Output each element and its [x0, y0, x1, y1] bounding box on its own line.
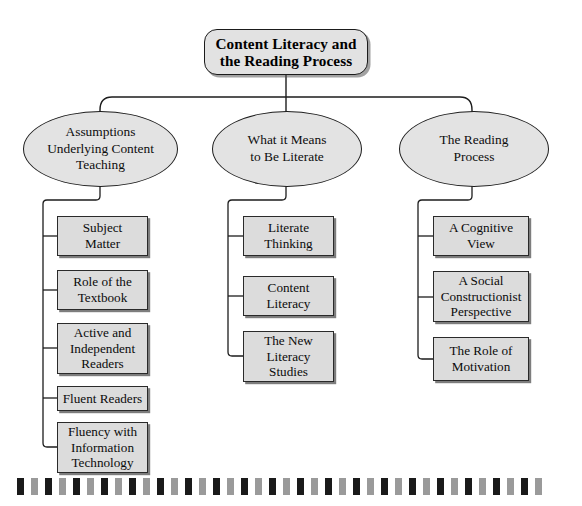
- barcode-block: [283, 478, 290, 495]
- branch-node-reading-process[interactable]: The Reading Process: [399, 111, 549, 187]
- barcode-block: [213, 478, 220, 495]
- leaf-active-line-1: Active and: [70, 325, 135, 341]
- barcode-block: [59, 478, 66, 495]
- branch-node-assumptions[interactable]: Assumptions Underlying Content Teaching: [23, 111, 178, 187]
- leaf-social-line-3: Perspective: [441, 304, 522, 320]
- branch-assumptions-line-3: Teaching: [47, 157, 154, 174]
- leaf-role-of-motivation[interactable]: The Role of Motivation: [433, 337, 529, 381]
- leaf-literate-thinking[interactable]: Literate Thinking: [243, 216, 334, 256]
- root-node-line-1: Content Literacy and: [215, 35, 356, 52]
- barcode-block: [297, 478, 304, 495]
- barcode-block: [367, 478, 374, 495]
- leaf-fluent-readers-line-1: Fluent Readers: [63, 391, 142, 407]
- barcode-block: [325, 478, 332, 495]
- barcode-block: [157, 478, 164, 495]
- leaf-fluent-readers[interactable]: Fluent Readers: [57, 386, 148, 411]
- barcode-block: [451, 478, 458, 495]
- leaf-textbook-line-1: Role of the: [73, 274, 132, 290]
- root-node-line-2: the Reading Process: [215, 52, 356, 69]
- leaf-fluency-line-2: Information: [68, 440, 137, 456]
- barcode-block: [535, 478, 542, 495]
- leaf-subject-matter-line-1: Subject: [83, 220, 123, 236]
- barcode-block: [87, 478, 94, 495]
- barcode-block: [269, 478, 276, 495]
- barcode-block: [143, 478, 150, 495]
- leaf-motivation-line-2: Motivation: [450, 359, 513, 375]
- leaf-content-literacy-line-2: Literacy: [267, 296, 311, 312]
- leaf-fluency-information-technology[interactable]: Fluency with Information Technology: [57, 422, 148, 473]
- barcode-block: [311, 478, 318, 495]
- root-node[interactable]: Content Literacy and the Reading Process: [204, 29, 368, 75]
- leaf-active-line-3: Readers: [70, 356, 135, 372]
- leaf-new-literacy-line-1: The New: [264, 333, 313, 349]
- barcode-block: [185, 478, 192, 495]
- branch-reading-line-1: The Reading: [440, 132, 509, 149]
- leaf-textbook-line-2: Textbook: [73, 290, 132, 306]
- barcode-block: [227, 478, 234, 495]
- barcode-block: [465, 478, 472, 495]
- barcode-strip: [17, 478, 542, 495]
- barcode-block: [507, 478, 514, 495]
- barcode-block: [199, 478, 206, 495]
- leaf-motivation-line-1: The Role of: [450, 343, 513, 359]
- leaf-literate-thinking-line-2: Thinking: [264, 236, 312, 252]
- leaf-new-literacy-line-2: Literacy: [264, 349, 313, 365]
- leaf-new-literacy-line-3: Studies: [264, 364, 313, 380]
- barcode-block: [115, 478, 122, 495]
- diagram-canvas: Content Literacy and the Reading Process…: [0, 0, 582, 506]
- branch-literate-line-2: to Be Literate: [248, 149, 327, 166]
- barcode-block: [423, 478, 430, 495]
- barcode-block: [17, 478, 24, 495]
- barcode-block: [479, 478, 486, 495]
- barcode-block: [45, 478, 52, 495]
- branch-assumptions-line-1: Assumptions: [47, 124, 154, 141]
- leaf-social-line-1: A Social: [441, 273, 522, 289]
- barcode-block: [353, 478, 360, 495]
- branch-assumptions-line-2: Underlying Content: [47, 141, 154, 158]
- leaf-cognitive-view-line-2: View: [449, 236, 513, 252]
- leaf-fluency-line-3: Technology: [68, 455, 137, 471]
- leaf-subject-matter[interactable]: Subject Matter: [57, 216, 148, 256]
- leaf-active-line-2: Independent: [70, 341, 135, 357]
- leaf-role-of-the-textbook[interactable]: Role of the Textbook: [57, 270, 148, 310]
- leaf-fluency-line-1: Fluency with: [68, 424, 137, 440]
- leaf-content-literacy[interactable]: Content Literacy: [243, 276, 334, 316]
- branch-reading-line-2: Process: [440, 149, 509, 166]
- barcode-block: [255, 478, 262, 495]
- barcode-block: [171, 478, 178, 495]
- leaf-literate-thinking-line-1: Literate: [264, 220, 312, 236]
- leaf-cognitive-view[interactable]: A Cognitive View: [433, 216, 529, 256]
- barcode-block: [101, 478, 108, 495]
- barcode-block: [31, 478, 38, 495]
- leaf-cognitive-view-line-1: A Cognitive: [449, 220, 513, 236]
- barcode-block: [339, 478, 346, 495]
- barcode-block: [73, 478, 80, 495]
- leaf-social-constructionist-perspective[interactable]: A Social Constructionist Perspective: [433, 271, 529, 322]
- barcode-block: [437, 478, 444, 495]
- leaf-new-literacy-studies[interactable]: The New Literacy Studies: [243, 331, 334, 382]
- leaf-active-independent-readers[interactable]: Active and Independent Readers: [57, 323, 148, 374]
- barcode-block: [521, 478, 528, 495]
- barcode-block: [493, 478, 500, 495]
- leaf-content-literacy-line-1: Content: [267, 280, 311, 296]
- barcode-block: [129, 478, 136, 495]
- leaf-subject-matter-line-2: Matter: [83, 236, 123, 252]
- barcode-block: [241, 478, 248, 495]
- branch-node-literate[interactable]: What it Means to Be Literate: [212, 111, 362, 187]
- barcode-block: [409, 478, 416, 495]
- leaf-social-line-2: Constructionist: [441, 289, 522, 305]
- barcode-block: [381, 478, 388, 495]
- branch-literate-line-1: What it Means: [248, 132, 327, 149]
- barcode-block: [395, 478, 402, 495]
